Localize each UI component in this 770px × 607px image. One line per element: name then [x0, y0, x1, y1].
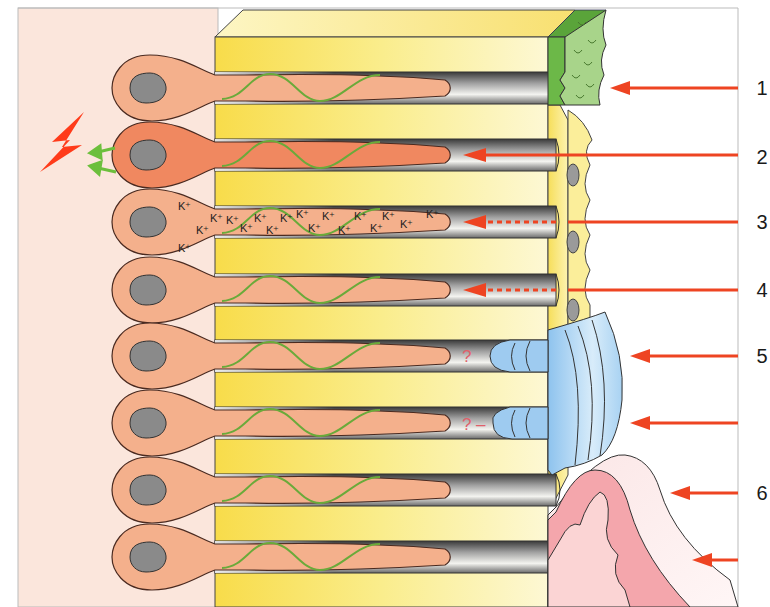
question-mark: ?	[462, 347, 471, 366]
svg-text:K⁺: K⁺	[338, 224, 351, 236]
svg-text:K⁺: K⁺	[322, 210, 335, 222]
svg-text:K⁺: K⁺	[226, 214, 239, 226]
svg-text:K⁺: K⁺	[354, 210, 367, 222]
question-mark: ?	[462, 415, 471, 434]
tubule-orifice	[567, 231, 579, 253]
label-1: 1	[752, 77, 770, 100]
svg-text:K⁺: K⁺	[178, 200, 191, 212]
svg-text:K⁺: K⁺	[382, 210, 395, 222]
dentin-top-face	[215, 10, 575, 37]
svg-text:K⁺: K⁺	[426, 208, 439, 220]
svg-text:K⁺: K⁺	[240, 222, 253, 234]
svg-text:K⁺: K⁺	[400, 218, 413, 230]
tubule-orifice	[567, 299, 579, 321]
dash-mark: –	[476, 415, 486, 434]
label-2: 2	[752, 146, 770, 169]
svg-text:K⁺: K⁺	[296, 208, 309, 220]
svg-text:K⁺: K⁺	[178, 242, 191, 254]
svg-text:K⁺: K⁺	[210, 212, 223, 224]
svg-text:K⁺: K⁺	[254, 212, 267, 224]
label-3: 3	[752, 211, 770, 234]
label-4: 4	[752, 279, 770, 302]
dentin-block	[215, 37, 548, 607]
svg-text:K⁺: K⁺	[196, 224, 209, 236]
tubule-orifice	[567, 164, 579, 186]
svg-text:K⁺: K⁺	[370, 222, 383, 234]
svg-text:K⁺: K⁺	[308, 222, 321, 234]
label-6: 6	[752, 482, 770, 505]
svg-text:K⁺: K⁺	[280, 212, 293, 224]
svg-text:K⁺: K⁺	[266, 224, 279, 236]
label-5: 5	[752, 345, 770, 368]
dentin-hypersensitivity-diagram: K⁺ K⁺ K⁺ K⁺ K⁺ K⁺ K⁺ K⁺ K⁺ K⁺ K⁺ K⁺ K⁺ K…	[0, 0, 770, 607]
